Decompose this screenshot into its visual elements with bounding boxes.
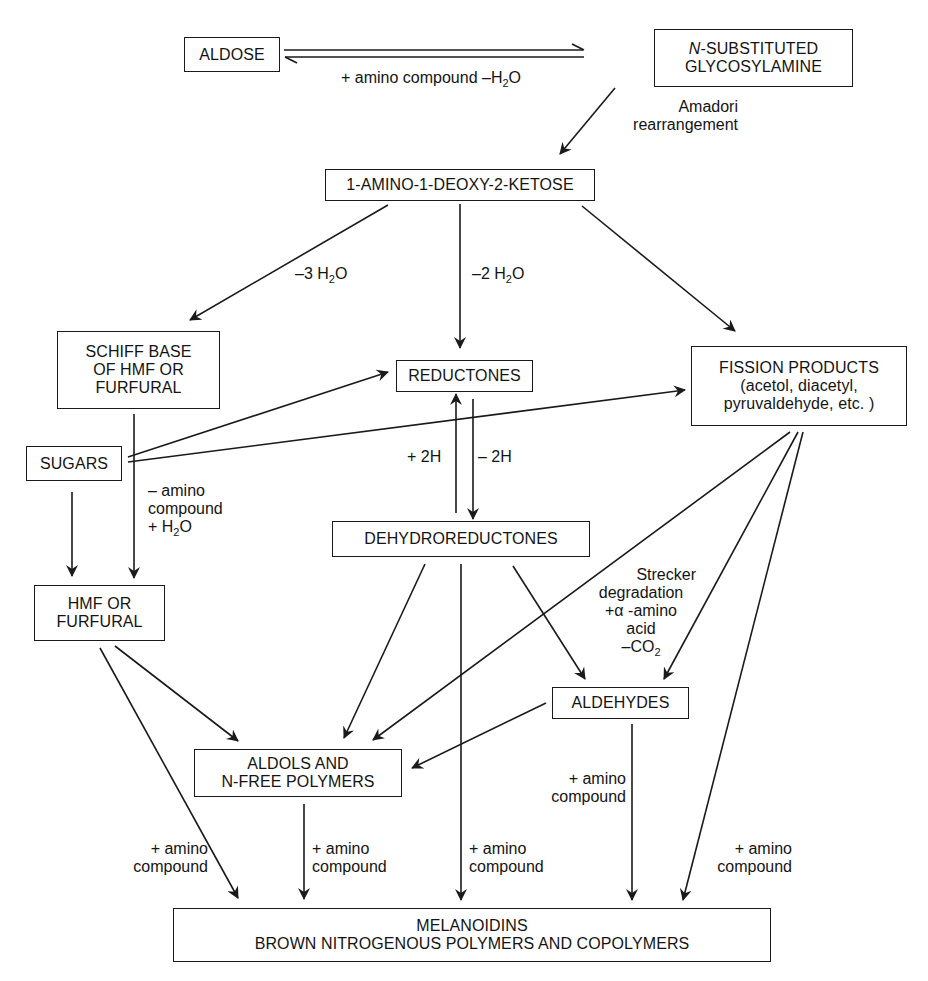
label-schiff-line2: compound [148,500,223,518]
node-schiff-base: SCHIFF BASE OF HMF OR FURFURAL [57,331,220,409]
label-plus-2h-text: + 2H [407,448,441,466]
label-amadori-line2: rearrangement [630,116,738,134]
label-amino-aldols-line2: compound [312,858,387,876]
node-fission-products: FISSION PRODUCTS (acetol, diacetyl, pyru… [691,346,907,426]
node-aldose: ALDOSE [184,37,280,72]
label-amino-aldehydes: + amino compound [526,770,626,806]
label-minus-2h-text: – 2H [478,448,512,466]
node-aldehydes-label: ALDEHYDES [572,694,670,712]
label-amino-minus-water-text: + amino compound –H2O [341,69,521,87]
node-ketose: 1-AMINO-1-DEOXY-2-KETOSE [325,169,595,201]
node-hmf-furfural: HMF OR FURFURAL [34,585,165,641]
label-amino-fission-line1: + amino [700,840,792,858]
arrow-layer [0,0,928,981]
node-aldols-line1: ALDOLS AND [247,755,348,773]
label-amadori: Amadori rearrangement [630,98,738,134]
label-amino-hmf: + amino compound [110,840,208,876]
label-minus-2-water: –2 H2O [472,265,524,283]
arrow-dehydro-to-aldols [344,564,425,738]
label-plus-2h: + 2H [407,448,441,466]
node-reductones: REDUCTONES [396,360,533,392]
node-aldols-line2: N-FREE POLYMERS [221,773,374,791]
node-aldehydes: ALDEHYDES [552,687,689,719]
label-strecker: Strecker degradation +α -amino acid –CO2 [586,566,696,656]
label-strecker-line2: degradation [586,584,696,602]
node-sugars-label: SUGARS [40,455,108,473]
label-amino-hmf-line2: compound [110,858,208,876]
node-hmf-line2: FURFURAL [56,613,142,631]
arrow-dehydro-to-aldehydes [513,566,585,679]
label-minus-2h: – 2H [478,448,512,466]
node-aldols: ALDOLS AND N-FREE POLYMERS [194,749,402,797]
arrow-fission-to-melanoidins [683,432,803,900]
node-fission-line2: (acetol, diacetyl, [740,377,857,395]
label-strecker-line5: –CO2 [586,638,696,656]
node-aldose-label: ALDOSE [199,46,265,64]
arrow-glycosylamine-to-ketose [560,88,615,154]
node-glycosylamine: N-SUBSTITUTED GLYCOSYLAMINE [654,29,853,87]
label-strecker-line3: +α -amino [586,602,696,620]
label-amino-aldols-line1: + amino [312,840,387,858]
arrow-aldehydes-to-aldols [412,703,546,768]
node-melanoidins-line1: MELANOIDINS [416,917,527,935]
arrow-ketose-to-schiff [190,205,388,320]
arrow-hmf-to-aldols [115,646,238,741]
label-strecker-line1: Strecker [586,566,696,584]
arrow-ketose-to-fission [582,206,735,331]
node-glycosylamine-line1: N-SUBSTITUTED [689,40,818,58]
label-schiff-to-hmf: – amino compound + H2O [148,482,223,536]
label-amino-minus-water: + amino compound –H2O [341,69,521,87]
node-fission-line3: pyruvaldehyde, etc. ) [724,395,875,413]
label-amino-dehydro-line1: + amino [469,840,544,858]
label-amino-hmf-line1: + amino [110,840,208,858]
label-minus-2-water-text: –2 H2O [472,265,524,283]
node-hmf-line1: HMF OR [68,595,132,613]
node-melanoidins-line2: BROWN NITROGENOUS POLYMERS AND COPOLYMER… [255,935,690,953]
label-amino-aldehydes-line2: compound [526,788,626,806]
node-schiff-line2: OF HMF OR [93,361,184,379]
label-minus-3-water: –3 H2O [295,265,347,283]
label-minus-3-water-text: –3 H2O [295,265,347,283]
label-amino-dehydro: + amino compound [469,840,544,876]
label-amino-dehydro-line2: compound [469,858,544,876]
node-sugars: SUGARS [26,446,122,481]
label-schiff-line1: – amino [148,482,223,500]
label-amino-fission: + amino compound [700,840,792,876]
node-dehydroreductones: DEHYDROREDUCTONES [332,521,590,557]
node-glycosylamine-line2: GLYCOSYLAMINE [685,58,822,76]
node-schiff-line1: SCHIFF BASE [85,343,191,361]
node-dehydroreductones-label: DEHYDROREDUCTONES [364,530,557,548]
node-fission-line1: FISSION PRODUCTS [719,359,879,377]
node-schiff-line3: FURFURAL [95,379,181,397]
label-strecker-line4: acid [586,620,696,638]
node-ketose-label: 1-AMINO-1-DEOXY-2-KETOSE [346,176,573,194]
label-schiff-line3: + H2O [148,518,223,536]
label-amino-aldols: + amino compound [312,840,387,876]
label-amino-aldehydes-line1: + amino [526,770,626,788]
node-reductones-label: REDUCTONES [408,367,521,385]
equilibrium-arrow-aldose-glycosylamine [284,44,584,63]
node-melanoidins: MELANOIDINS BROWN NITROGENOUS POLYMERS A… [173,908,771,962]
label-amino-fission-line2: compound [700,858,792,876]
label-amadori-line1: Amadori [630,98,738,116]
